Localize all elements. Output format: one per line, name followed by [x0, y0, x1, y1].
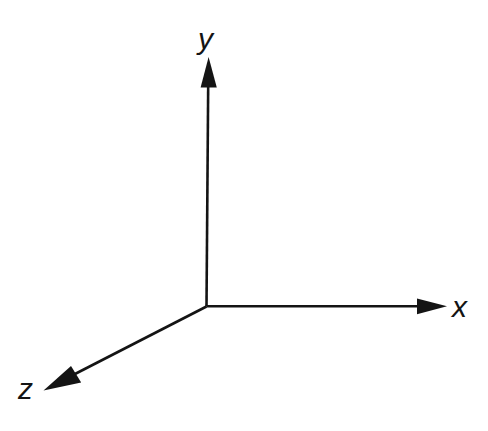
axes-drawing-canvas: y x z: [0, 0, 488, 431]
x-axis-label: x: [450, 290, 468, 323]
z-axis-label: z: [17, 372, 33, 405]
coordinate-axes-figure: y x z: [0, 0, 488, 431]
figure-background: [0, 0, 488, 431]
y-axis-line: [207, 84, 209, 307]
y-axis-label: y: [196, 22, 215, 55]
